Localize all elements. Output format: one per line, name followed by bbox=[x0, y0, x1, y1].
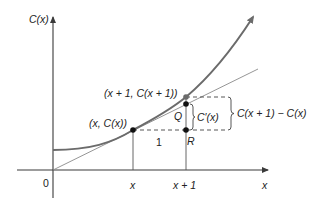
point-x1-cx1 bbox=[183, 94, 189, 100]
difference-brace bbox=[228, 97, 234, 130]
tick-label-x: x bbox=[129, 179, 136, 191]
tangent-line bbox=[53, 69, 258, 170]
marginal-cost-diagram: C(x) x 0 x x + 1 (x, C(x)) (x + 1, C(x +… bbox=[0, 0, 319, 201]
point-label-q: Q bbox=[174, 110, 182, 122]
y-axis-label: C(x) bbox=[29, 13, 49, 25]
point-label-x-cx: (x, C(x)) bbox=[89, 117, 127, 129]
point-label-r: R bbox=[187, 135, 195, 147]
difference-label: C(x + 1) − C(x) bbox=[237, 107, 306, 119]
point-q bbox=[183, 101, 189, 107]
tick-label-x-plus-1: x + 1 bbox=[172, 179, 196, 191]
point-label-x1-cx1: (x + 1, C(x + 1)) bbox=[104, 87, 178, 99]
point-x-cx bbox=[130, 127, 136, 133]
run-label: 1 bbox=[156, 136, 162, 148]
origin-label: 0 bbox=[43, 177, 49, 189]
derivative-brace bbox=[190, 104, 195, 130]
point-r bbox=[183, 127, 189, 133]
x-axis-label: x bbox=[261, 179, 268, 191]
derivative-label: C′(x) bbox=[197, 111, 219, 123]
